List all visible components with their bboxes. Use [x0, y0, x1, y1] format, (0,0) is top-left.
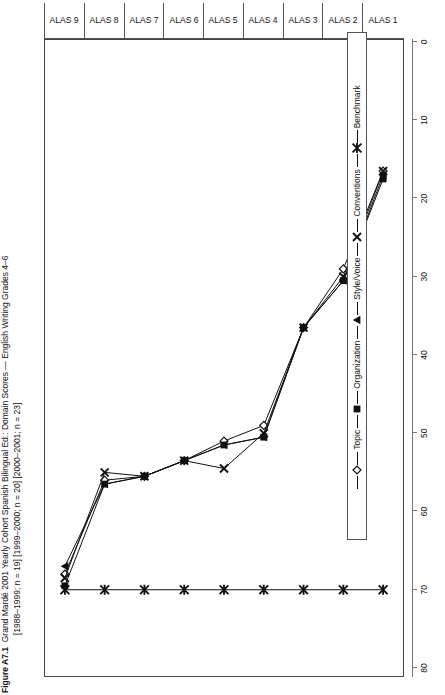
category-tick-cell: ALAS 8 [84, 3, 124, 39]
category-label: ALAS 9 [59, 3, 69, 37]
series-style-voice [61, 171, 387, 571]
value-tick-label: 60 [419, 507, 429, 516]
marker-filled-triangle [61, 562, 69, 570]
legend-marker-filled-triangle-icon [351, 315, 363, 326]
legend-line [357, 130, 358, 143]
legend-item-organization[interactable]: Organization [351, 339, 363, 428]
value-tick [412, 119, 417, 120]
legend-line [357, 219, 358, 232]
legend-line [357, 415, 358, 428]
value-tick [412, 589, 417, 590]
category-label: ALAS 4 [258, 3, 268, 37]
figure-title: Grand Mardé 2001 Yearly Cohort Spanish B… [0, 255, 10, 642]
figure-page: Figure A7.1 Grand Mardé 2001 Yearly Coho… [0, 0, 445, 695]
series-topic [61, 167, 387, 578]
series-benchmark [60, 585, 387, 595]
category-label: ALAS 1 [378, 3, 388, 37]
category-label: ALAS 5 [218, 3, 228, 37]
legend-item-benchmark[interactable]: Benchmark [351, 83, 363, 167]
value-tick-label: 30 [419, 272, 429, 281]
series-organization [61, 176, 386, 590]
category-group-axis: 98–9999–0000–01 [44, 0, 404, 3]
value-axis: 01020304050607080 [412, 39, 438, 677]
legend-line [357, 476, 358, 489]
legend-label: Topic [352, 428, 362, 452]
category-label: ALAS 7 [139, 3, 149, 37]
legend-line [357, 154, 358, 167]
chart-legend: TopicOrganizationStyle/VoiceConventionsB… [347, 32, 367, 540]
value-tick-label: 50 [419, 429, 429, 438]
legend-marker-x-cross-icon [351, 232, 363, 243]
value-tick [412, 432, 417, 433]
value-tick-label: 80 [419, 663, 429, 672]
legend-label: Benchmark [352, 83, 362, 130]
legend-label: Style/Voice [352, 256, 362, 302]
value-tick-label: 40 [419, 350, 429, 359]
caption-line-1: Figure A7.1 Grand Mardé 2001 Yearly Coho… [0, 255, 11, 693]
legend-label: Conventions [352, 167, 362, 218]
category-tick-cell: ALAS 6 [163, 3, 203, 39]
category-tick-cell: ALAS 5 [203, 3, 243, 39]
legend-line [357, 391, 358, 404]
figure-number: Figure A7.1 [0, 647, 10, 693]
category-label: ALAS 3 [298, 3, 308, 37]
value-tick [412, 198, 417, 199]
legend-line [357, 243, 358, 256]
category-group-label: 00–01 [98, 0, 108, 3]
legend-line [357, 302, 358, 315]
legend-marker-filled-square-icon [351, 404, 363, 415]
marker-x-cross [220, 464, 228, 472]
value-tick [412, 354, 417, 355]
marker-filled-triangle [353, 315, 361, 323]
marker-open-diamond [353, 466, 361, 474]
legend-marker-open-diamond-icon [351, 465, 363, 476]
category-group-label: 98–99 [336, 0, 346, 3]
category-label: ALAS 8 [99, 3, 109, 37]
category-group-label: 99–00 [217, 0, 227, 3]
value-tick-label: 0 [419, 40, 429, 45]
value-tick [412, 667, 417, 668]
chart-panel: 01020304050607080 ALAS 1ALAS 2ALAS 3ALAS… [22, 0, 445, 695]
legend-item-topic[interactable]: Topic [351, 428, 363, 489]
value-tick-label: 10 [419, 116, 429, 125]
category-tick-cell: ALAS 1 [362, 3, 402, 39]
value-tick [412, 41, 417, 42]
marker-x-cross [353, 233, 361, 241]
marker-filled-square [354, 405, 361, 412]
value-tick [412, 511, 417, 512]
value-axis-line [412, 39, 413, 677]
category-tick-cell: ALAS 9 [44, 3, 84, 39]
category-label: ALAS 6 [179, 3, 189, 37]
legend-marker-star-icon [351, 143, 363, 154]
marker-star [353, 143, 362, 153]
value-tick-label: 70 [419, 585, 429, 594]
series-conventions [61, 167, 387, 582]
legend-line [357, 452, 358, 465]
legend-item-style-voice[interactable]: Style/Voice [351, 256, 363, 339]
category-tick-cell: ALAS 3 [283, 3, 323, 39]
value-tick-label: 20 [419, 194, 429, 203]
legend-item-conventions[interactable]: Conventions [351, 167, 363, 255]
legend-line [357, 326, 358, 339]
value-tick [412, 276, 417, 277]
legend-label: Organization [352, 339, 362, 391]
category-tick-cell: ALAS 7 [124, 3, 164, 39]
category-tick-cell: ALAS 4 [243, 3, 283, 39]
